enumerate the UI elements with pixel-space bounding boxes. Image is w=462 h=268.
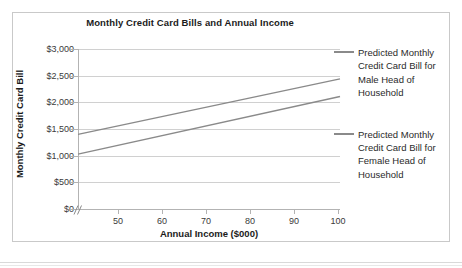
x-tick-label: 50 [113, 216, 123, 226]
y-axis-tick-labels: $3,000 $2,500 $2,000 $1,500 $1,000 $500 … [0, 49, 74, 209]
legend-entry-male: Predicted Monthly Credit Card Bill for M… [348, 46, 444, 100]
series-line-male [78, 79, 340, 134]
y-axis-tick [70, 182, 78, 183]
page-edge-line [0, 262, 462, 263]
chart-title: Monthly Credit Card Bills and Annual Inc… [60, 17, 320, 28]
x-axis-tick [294, 209, 295, 214]
x-tick-label: 80 [245, 216, 255, 226]
y-axis-tick [70, 156, 78, 157]
x-axis-line [70, 209, 340, 210]
x-tick-label: 70 [201, 216, 211, 226]
x-axis-tick [206, 209, 207, 214]
y-axis-tick [70, 102, 78, 103]
legend-label: Predicted Monthly Credit Card Bill for F… [358, 128, 444, 182]
chart-legend: Predicted Monthly Credit Card Bill for M… [348, 46, 444, 209]
x-axis-title: Annual Income ($000) [78, 228, 340, 239]
series-lines [78, 49, 340, 209]
y-axis-tick [70, 49, 78, 50]
x-tick-label: 60 [157, 216, 167, 226]
y-axis-tick [70, 76, 78, 77]
x-axis-tick [162, 209, 163, 214]
plot-area: 50 60 70 80 90 100 [78, 49, 340, 209]
x-axis-tick [338, 209, 339, 214]
x-axis-tick [118, 209, 119, 214]
y-axis-tick [70, 129, 78, 130]
legend-label: Predicted Monthly Credit Card Bill for M… [358, 46, 444, 100]
x-tick-label: 100 [330, 216, 345, 226]
legend-entry-female: Predicted Monthly Credit Card Bill for F… [348, 128, 444, 182]
x-tick-label: 90 [289, 216, 299, 226]
legend-line-swatch-icon [334, 51, 354, 53]
legend-line-swatch-icon [334, 133, 354, 135]
series-line-female [78, 96, 340, 154]
chart-figure: Monthly Credit Card Bills and Annual Inc… [0, 0, 462, 268]
x-axis-tick [250, 209, 251, 214]
page-edge-line-secondary [0, 265, 462, 266]
